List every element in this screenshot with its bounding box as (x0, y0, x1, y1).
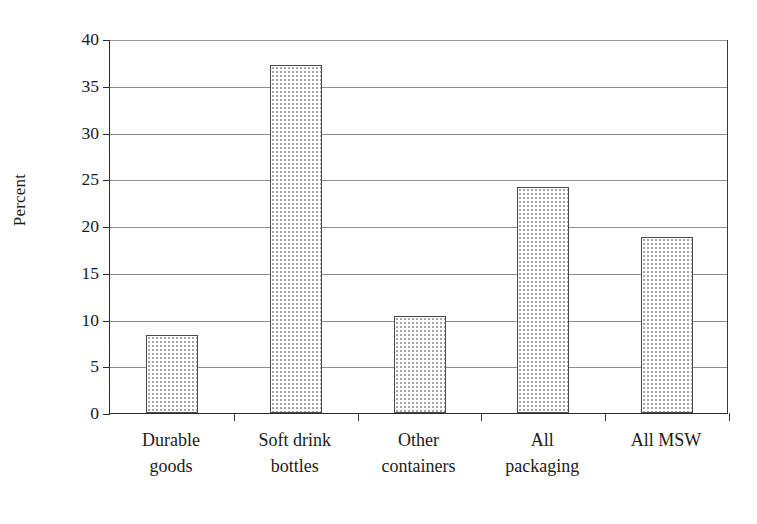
x-category-label: Other containers (357, 428, 481, 479)
y-axis-title: Percent (10, 150, 30, 250)
bar (641, 237, 693, 413)
x-tick-mark (481, 413, 482, 421)
y-tick-mark (103, 40, 110, 41)
x-tick-mark (729, 413, 730, 421)
bar-chart: Percent 0510152025303540Durable goodsSof… (0, 0, 757, 524)
bar (394, 316, 446, 413)
y-tick-mark (103, 180, 110, 181)
y-tick-mark (103, 134, 110, 135)
gridline (110, 87, 727, 88)
bar (270, 65, 322, 413)
y-tick-label: 15 (53, 265, 99, 283)
x-tick-mark (234, 413, 235, 421)
gridline (110, 180, 727, 181)
y-tick-label: 25 (53, 172, 99, 190)
y-tick-mark (103, 274, 110, 275)
plot-top-rule (110, 40, 727, 41)
bar (146, 335, 198, 413)
y-tick-label: 40 (53, 31, 99, 49)
x-category-label: All MSW (604, 428, 728, 454)
gridline (110, 227, 727, 228)
y-tick-mark (103, 367, 110, 368)
plot-area (109, 40, 728, 414)
x-tick-mark (605, 413, 606, 421)
y-tick-mark (103, 227, 110, 228)
gridline (110, 274, 727, 275)
y-tick-label: 20 (53, 218, 99, 236)
x-category-label: All packaging (480, 428, 604, 479)
gridline (110, 134, 727, 135)
y-tick-label: 5 (53, 359, 99, 377)
y-tick-label: 10 (53, 312, 99, 330)
y-tick-mark (103, 414, 110, 415)
y-tick-mark (103, 321, 110, 322)
y-tick-label: 35 (53, 78, 99, 96)
y-tick-label: 0 (53, 405, 99, 423)
y-tick-mark (103, 87, 110, 88)
x-tick-mark (358, 413, 359, 421)
y-tick-label: 30 (53, 125, 99, 143)
bar (517, 187, 569, 413)
x-category-label: Soft drink bottles (233, 428, 357, 479)
x-category-label: Durable goods (109, 428, 233, 479)
